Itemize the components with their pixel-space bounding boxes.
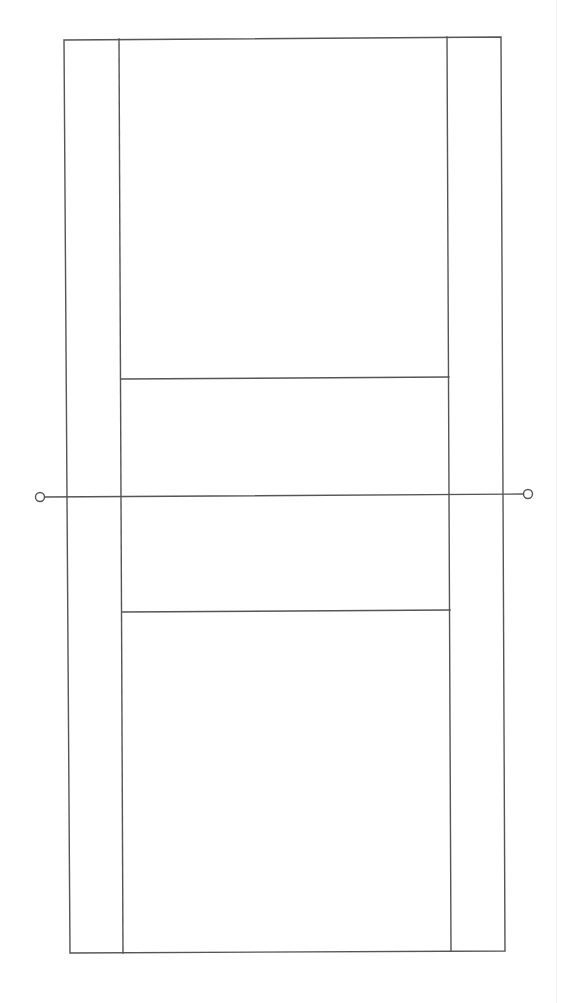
right-net-post-icon	[524, 490, 533, 499]
left-net-post-icon	[36, 493, 45, 502]
far-service-line	[121, 377, 449, 379]
near-service-line	[122, 610, 450, 612]
net-line	[44, 494, 524, 497]
court-diagram	[0, 0, 577, 1003]
